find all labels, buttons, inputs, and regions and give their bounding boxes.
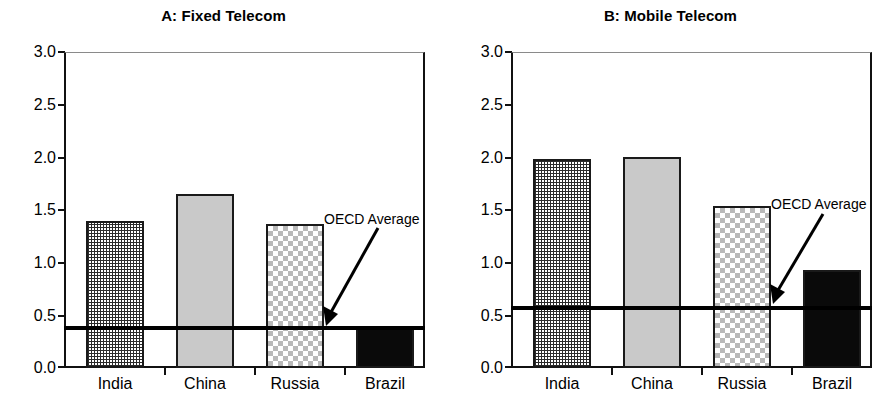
panel-a-ytick-0-5: 0.5 bbox=[6, 308, 56, 324]
panel-a-xaxis-labels: India China Russia Brazil bbox=[64, 374, 425, 400]
panel-a-bar-russia[interactable] bbox=[266, 224, 324, 368]
panel-b-bar-india[interactable] bbox=[533, 159, 591, 368]
panel-b-xlabel-russia: Russia bbox=[697, 374, 787, 394]
panel-a-title: A: Fixed Telecom bbox=[0, 6, 447, 26]
panel-a-oecd-average-line bbox=[64, 326, 425, 330]
panel-a-bar-china[interactable] bbox=[176, 194, 234, 368]
panel-a-fixed-telecom: A: Fixed Telecom 3.0 2.5 2.0 1.5 1.0 0.5… bbox=[0, 0, 447, 418]
panel-b-bar-brazil[interactable] bbox=[803, 270, 861, 368]
panel-a-bar-india[interactable] bbox=[86, 221, 144, 368]
panel-a-ytick-1-5: 1.5 bbox=[6, 202, 56, 218]
panel-b-ytick-1-5: 1.5 bbox=[453, 202, 503, 218]
panel-a-ytick-0-0: 0.0 bbox=[6, 360, 56, 376]
panel-b-xlabel-china: China bbox=[607, 374, 697, 394]
panel-b-oecd-average-line bbox=[511, 306, 872, 310]
panel-b-ytick-0-0: 0.0 bbox=[453, 360, 503, 376]
panel-b-xlabel-brazil: Brazil bbox=[787, 374, 877, 394]
panel-b-title: B: Mobile Telecom bbox=[447, 6, 894, 26]
figure-two-panel-bar-chart: A: Fixed Telecom 3.0 2.5 2.0 1.5 1.0 0.5… bbox=[0, 0, 894, 418]
panel-a-bar-brazil[interactable] bbox=[356, 328, 414, 368]
panel-b-bar-china[interactable] bbox=[623, 157, 681, 368]
panel-a-xlabel-brazil: Brazil bbox=[340, 374, 430, 394]
panel-b-ytick-3-0: 3.0 bbox=[453, 44, 503, 60]
panel-b-ytick-1-0: 1.0 bbox=[453, 255, 503, 271]
panel-b-ytick-2-5: 2.5 bbox=[453, 97, 503, 113]
panel-a-bars bbox=[64, 52, 425, 368]
panel-b-oecd-average-label: OECD Average bbox=[771, 196, 866, 212]
panel-b-xaxis-labels: India China Russia Brazil bbox=[511, 374, 872, 400]
panel-b-mobile-telecom: B: Mobile Telecom 3.0 2.5 2.0 1.5 1.0 0.… bbox=[447, 0, 894, 418]
panel-a-ytick-2-0: 2.0 bbox=[6, 150, 56, 166]
panel-a-ytick-3-0: 3.0 bbox=[6, 44, 56, 60]
panel-b-bar-russia[interactable] bbox=[713, 206, 771, 368]
panel-b-ytick-0-5: 0.5 bbox=[453, 308, 503, 324]
panel-a-ytick-2-5: 2.5 bbox=[6, 97, 56, 113]
panel-b-ytick-2-0: 2.0 bbox=[453, 150, 503, 166]
panel-b-xlabel-india: India bbox=[517, 374, 607, 394]
panel-a-xlabel-india: India bbox=[70, 374, 160, 394]
panel-a-oecd-average-label: OECD Average bbox=[324, 211, 419, 227]
panel-a-xlabel-china: China bbox=[160, 374, 250, 394]
panel-a-ytick-1-0: 1.0 bbox=[6, 255, 56, 271]
panel-a-xlabel-russia: Russia bbox=[250, 374, 340, 394]
